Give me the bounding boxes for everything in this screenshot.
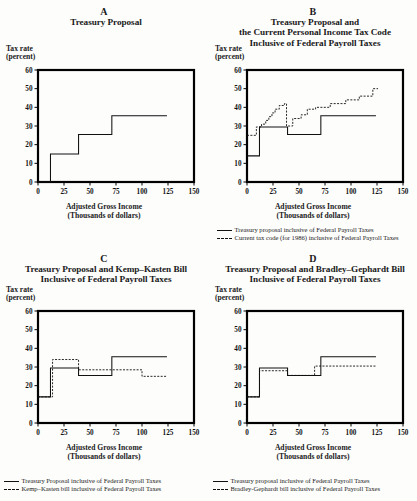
- panel-b-series-0: [247, 116, 376, 156]
- panel-d-legend-label-1: Bradley-Gephardt bill inclusive of Feder…: [231, 485, 381, 493]
- panel-b-xtick-75: 75: [321, 188, 329, 196]
- panel-d-letter: D: [209, 253, 417, 264]
- panel-c-legend-label-0: Treasury Proposal inclusive of Federal P…: [22, 477, 161, 485]
- panel-b-legend-item-0: Treasury proposal inclusive of Federal P…: [217, 226, 399, 234]
- panel-c-y-axis-label-line-2: (percent): [6, 294, 35, 302]
- panel-c-xtick-150: 150: [189, 429, 200, 437]
- panel-c-xtick-100: 100: [137, 429, 148, 437]
- panel-b-xtick-100: 100: [346, 188, 357, 196]
- panel-b-x-axis-label-line-2: (Thousands of dollars): [209, 212, 417, 221]
- panel-a-xtick-125: 125: [163, 188, 174, 196]
- panel-d-y-axis-label-line-2: (percent): [215, 294, 244, 302]
- panel-a-xtick-75: 75: [112, 188, 120, 196]
- panel-d-ytick-10: 10: [234, 401, 242, 409]
- panel-c-legend-item-0: Treasury Proposal inclusive of Federal P…: [4, 477, 161, 485]
- panel-d-series-0: [247, 357, 376, 397]
- panel-d-xtick-150: 150: [398, 429, 409, 437]
- panel-d-ytick-40: 40: [234, 345, 242, 353]
- panel-a-svg: 60504030201000255075100125150: [14, 62, 200, 202]
- panel-d-xtick-25: 25: [269, 429, 277, 437]
- panel-d-ytick-60: 60: [234, 308, 242, 316]
- panel-b-y-axis-label: Tax rate (percent): [215, 45, 244, 62]
- panel-c: C Treasury Proposal and Kemp–Kasten Bill…: [0, 251, 208, 501]
- panel-b-series: [247, 89, 378, 156]
- panel-b-ytick-20: 20: [234, 141, 242, 149]
- panel-a-ytick-20: 20: [25, 141, 33, 149]
- solid-line-key-icon: [4, 478, 19, 485]
- panel-b-xtick-125: 125: [372, 188, 383, 196]
- panel-c-xtick-125: 125: [163, 429, 174, 437]
- panel-a-letter: A: [0, 6, 208, 17]
- panel-a-ytick-0: 0: [29, 179, 33, 187]
- panel-d-xtick-75: 75: [321, 429, 329, 437]
- panel-a-title-line-1: Treasury Proposal: [2, 17, 210, 27]
- panel-a-xtick-50: 50: [86, 188, 94, 196]
- panel-c-series-1: [38, 360, 167, 397]
- panel-d: D Treasury Proposal and Bradley–Gephardt…: [209, 251, 417, 501]
- panel-c-xtick-25: 25: [60, 429, 68, 437]
- panel-a-x-axis-label-line-2: (Thousands of dollars): [0, 212, 208, 221]
- panel-c-x-axis-label: Adjusted Gross Income (Thousands of doll…: [0, 444, 208, 461]
- panel-b-ytick-60: 60: [234, 67, 242, 75]
- panel-c-title: Treasury Proposal and Kemp–Kasten Bill I…: [0, 264, 212, 285]
- panel-c-ytick-60: 60: [25, 308, 33, 316]
- panel-a-ytick-30: 30: [25, 123, 33, 131]
- figure-sheet: A Treasury Proposal Tax rate (percent) 6…: [0, 0, 417, 501]
- panel-a-xtick-100: 100: [137, 188, 148, 196]
- panel-b-legend-item-1: Current tax code (for 1986) inclusive of…: [217, 234, 399, 242]
- dashed-line-key-icon: [213, 486, 228, 493]
- panel-c-ytick-50: 50: [25, 326, 33, 334]
- panel-b-xtick-150: 150: [398, 188, 409, 196]
- panel-c-ytick-30: 30: [25, 364, 33, 372]
- panel-b-xtick-50: 50: [295, 188, 303, 196]
- panel-b-ytick-30: 30: [234, 123, 242, 131]
- panel-d-title-line-2: Inclusive of Federal Payroll Taxes: [211, 274, 417, 284]
- panel-b-y-axis-label-line-2: (percent): [215, 53, 244, 61]
- panel-a-ytick-50: 50: [25, 85, 33, 93]
- panel-d-ytick-30: 30: [234, 364, 242, 372]
- solid-line-key-icon: [217, 227, 232, 234]
- panel-b-title-line-1: Treasury Proposal and: [211, 17, 417, 27]
- panel-b-frame: [244, 70, 404, 186]
- panel-c-x-axis-label-line-2: (Thousands of dollars): [0, 453, 208, 462]
- panel-b-ytick-labels: 60504030201000255075100125150: [234, 67, 408, 196]
- panel-c-series: [38, 357, 167, 397]
- panel-c-ytick-0: 0: [29, 420, 33, 428]
- panel-c-xtick-0: 0: [36, 429, 40, 437]
- panel-c-letter: C: [0, 253, 208, 264]
- panel-d-xtick-0: 0: [245, 429, 249, 437]
- panel-d-legend: Treasury proposal inclusive of Federal P…: [213, 477, 380, 494]
- panel-c-ytick-40: 40: [25, 345, 33, 353]
- panel-d-plot: 60504030201000255075100125150: [223, 303, 409, 443]
- panel-c-ytick-20: 20: [25, 382, 33, 390]
- panel-c-legend: Treasury Proposal inclusive of Federal P…: [4, 477, 161, 494]
- panel-b-legend-label-0: Treasury proposal inclusive of Federal P…: [235, 226, 374, 234]
- panel-d-xtick-100: 100: [346, 429, 357, 437]
- panel-d-legend-label-0: Treasury proposal inclusive of Federal P…: [231, 477, 370, 485]
- solid-line-key-icon: [213, 478, 228, 485]
- panel-a-y-axis-label: Tax rate (percent): [6, 45, 35, 62]
- panel-b-letter: B: [209, 6, 417, 17]
- panel-b-ytick-50: 50: [234, 85, 242, 93]
- panel-d-ytick-0: 0: [238, 420, 242, 428]
- dashed-line-key-icon: [4, 486, 19, 493]
- panel-b-legend-label-1: Current tax code (for 1986) inclusive of…: [235, 234, 399, 242]
- panel-b-legend: Treasury proposal inclusive of Federal P…: [217, 226, 399, 243]
- panel-c-frame: [35, 311, 195, 427]
- panel-a-x-axis-label: Adjusted Gross Income (Thousands of doll…: [0, 203, 208, 220]
- panel-c-svg: 60504030201000255075100125150: [14, 303, 200, 443]
- panel-c-title-line-2: Inclusive of Federal Payroll Taxes: [2, 274, 210, 284]
- panel-a-frame: [35, 70, 195, 186]
- panel-d-frame: [244, 311, 404, 427]
- panel-a-xtick-25: 25: [60, 188, 68, 196]
- panel-c-plot: 60504030201000255075100125150: [14, 303, 200, 443]
- panel-d-title: Treasury Proposal and Bradley–Gephardt B…: [209, 264, 417, 285]
- dashed-line-key-icon: [217, 235, 232, 242]
- panel-a: A Treasury Proposal Tax rate (percent) 6…: [0, 0, 208, 250]
- panel-d-y-axis-label: Tax rate (percent): [215, 286, 244, 303]
- panel-a-ytick-40: 40: [25, 104, 33, 112]
- panel-d-series: [247, 357, 376, 397]
- panel-a-ytick-60: 60: [25, 67, 33, 75]
- panel-d-ytick-labels: 60504030201000255075100125150: [234, 308, 408, 437]
- panel-a-xtick-150: 150: [189, 188, 200, 196]
